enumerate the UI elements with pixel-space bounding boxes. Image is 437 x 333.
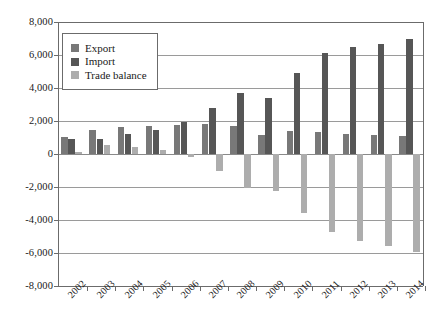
legend-label-export: Export [85,43,115,54]
bar-export-2002 [61,137,67,154]
x-tick-mark-2010 [312,286,313,291]
x-tick-mark-2012 [369,286,370,291]
y-tick-mark--8000 [54,286,59,287]
gridline--4000 [59,220,423,221]
legend-swatch-trade-balance [71,71,79,79]
bar-trade-balance-2004 [132,147,138,154]
bar-import-2012 [350,47,356,154]
bar-trade-balance-2003 [104,145,110,154]
legend-swatch-export [71,44,79,52]
y-tick-label-8000: 8,000 [1,17,53,28]
y-tick-mark-8000 [54,22,59,23]
bar-import-2010 [294,73,300,154]
bar-export-2013 [371,135,377,154]
x-tick-mark-2007 [228,286,229,291]
bar-export-2004 [118,127,124,154]
bar-trade-balance-2014 [413,154,419,252]
bar-export-2011 [315,132,321,154]
bar-import-2005 [153,130,159,154]
gridline-8000 [59,22,423,23]
y-tick-mark-4000 [54,88,59,89]
y-tick-mark--2000 [54,187,59,188]
trade-bar-chart: 8,0006,0004,0002,0000-2,000-4,000-6,000-… [0,0,437,333]
x-tick-mark-2004 [143,286,144,291]
bar-import-2009 [265,98,271,154]
x-tick-mark-2003 [115,286,116,291]
chart-legend: Export Import Trade balance [62,33,158,90]
bar-import-2003 [97,139,103,154]
y-tick-label--4000: -4,000 [1,215,53,226]
bar-trade-balance-2005 [160,150,166,154]
bar-export-2007 [202,124,208,154]
bar-export-2008 [230,126,236,154]
bar-import-2011 [322,53,328,154]
bar-trade-balance-2013 [385,154,391,246]
y-tick-label--6000: -6,000 [1,248,53,259]
x-tick-mark-2013 [397,286,398,291]
legend-item-import: Import [71,56,147,67]
x-tick-mark-2006 [200,286,201,291]
gridline--2000 [59,187,423,188]
y-tick-mark-0 [54,154,59,155]
bar-export-2003 [89,130,95,154]
y-tick-mark-2000 [54,121,59,122]
legend-item-trade-balance: Trade balance [71,70,147,81]
bar-import-2006 [181,122,187,154]
bar-trade-balance-2012 [357,154,363,241]
bar-import-2004 [125,134,131,154]
x-tick-mark-2008 [256,286,257,291]
bar-import-2014 [406,39,412,154]
y-tick-mark-6000 [54,55,59,56]
legend-item-export: Export [71,43,147,54]
legend-label-import: Import [85,56,115,67]
x-tick-mark-2002 [87,286,88,291]
legend-swatch-import [71,58,79,66]
bar-import-2008 [237,93,243,154]
bar-trade-balance-2011 [329,154,335,232]
bar-import-2002 [68,139,74,154]
bar-import-2013 [378,44,384,154]
bar-export-2009 [258,135,264,154]
gridline-0 [59,154,423,155]
legend-label-trade-balance: Trade balance [85,70,147,81]
y-tick-label-2000: 2,000 [1,116,53,127]
y-tick-label--2000: -2,000 [1,182,53,193]
bar-export-2012 [343,134,349,154]
bar-export-2006 [174,125,180,154]
y-tick-mark--4000 [54,220,59,221]
gridline--6000 [59,253,423,254]
y-tick-label-6000: 6,000 [1,50,53,61]
bar-trade-balance-2009 [273,154,279,191]
bar-trade-balance-2008 [244,154,250,188]
bar-trade-balance-2010 [301,154,307,213]
bar-import-2007 [209,108,215,154]
bar-export-2005 [146,126,152,154]
bar-trade-balance-2002 [75,152,81,154]
x-tick-mark-2011 [341,286,342,291]
y-tick-label-0: 0 [1,149,53,160]
x-tick-mark-2014 [425,286,426,291]
x-tick-mark-2005 [172,286,173,291]
bar-trade-balance-2007 [216,154,222,171]
bar-export-2010 [287,131,293,154]
bar-trade-balance-2006 [188,154,194,157]
y-tick-mark--6000 [54,253,59,254]
y-tick-label-4000: 4,000 [1,83,53,94]
y-tick-label--8000: -8,000 [1,281,53,292]
bar-export-2014 [399,136,405,154]
